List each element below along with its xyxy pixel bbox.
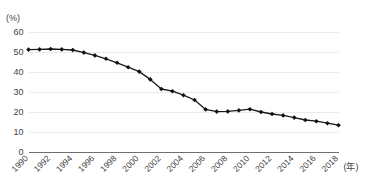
data-point-marker — [336, 123, 341, 128]
data-point-marker — [248, 107, 253, 112]
x-tick-label: 2018 — [319, 153, 340, 174]
series-polyline — [29, 49, 339, 125]
x-tick-label: 2008 — [209, 153, 230, 174]
data-point-marker — [259, 110, 264, 115]
x-tick-label: 2006 — [187, 153, 208, 174]
data-point-marker — [48, 47, 53, 52]
x-axis-tick-labels: 1990199219941996199820002002200420062008… — [9, 153, 340, 174]
x-tick-label: 2016 — [297, 153, 318, 174]
y-tick-label: 50 — [13, 47, 23, 57]
x-tick-label: 2014 — [275, 153, 296, 174]
y-tick-label: 10 — [13, 127, 23, 137]
x-tick-label: 1994 — [54, 153, 75, 174]
x-axis-unit-label: (年) — [344, 161, 359, 172]
data-point-marker — [115, 61, 120, 66]
x-tick-label: 1992 — [32, 153, 53, 174]
data-point-marker — [292, 115, 297, 120]
data-point-marker — [37, 47, 42, 52]
x-tick-label: 2010 — [231, 153, 252, 174]
data-point-marker — [59, 47, 64, 52]
x-tick-label: 2002 — [142, 153, 163, 174]
x-tick-label: 2012 — [253, 153, 274, 174]
data-point-marker — [281, 113, 286, 118]
data-point-marker — [70, 48, 75, 53]
data-point-marker — [214, 109, 219, 114]
y-tick-label: 40 — [13, 67, 23, 77]
x-tick-label: 1998 — [98, 153, 119, 174]
y-tick-label: 30 — [13, 87, 23, 97]
plot-area: 6050403020100 19901992199419961998200020… — [0, 0, 378, 188]
y-axis-tick-labels: 6050403020100 — [13, 27, 23, 157]
x-tick-label: 1996 — [76, 153, 97, 174]
x-tick-label: 2004 — [164, 153, 185, 174]
data-point-marker — [325, 121, 330, 126]
y-tick-label: 60 — [13, 27, 23, 37]
y-tick-label: 20 — [13, 107, 23, 117]
x-tick-label: 1990 — [9, 153, 30, 174]
data-point-marker — [225, 109, 230, 114]
line-chart: (%) 6050403020100 1990199219941996199820… — [0, 0, 378, 188]
data-series — [26, 47, 341, 128]
data-point-marker — [181, 93, 186, 98]
data-point-marker — [82, 50, 87, 55]
data-point-marker — [104, 57, 109, 62]
data-point-marker — [26, 47, 31, 52]
data-point-marker — [126, 65, 131, 70]
data-point-marker — [93, 53, 98, 58]
data-point-marker — [314, 119, 319, 124]
x-tick-label: 2000 — [120, 153, 141, 174]
data-point-marker — [303, 118, 308, 123]
